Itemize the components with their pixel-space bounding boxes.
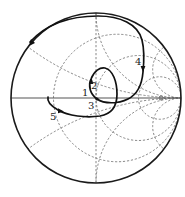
point-label-5: 5 <box>50 111 56 122</box>
point-label-1: 1 <box>82 87 88 98</box>
point-label-2: 2 <box>91 80 97 91</box>
smith-chart: 1 2 3 4 5 <box>0 0 185 197</box>
point-3-marker <box>95 97 98 100</box>
impedance-locus <box>30 16 144 117</box>
point-label-3: 3 <box>88 100 94 111</box>
point-label-4: 4 <box>135 56 141 67</box>
